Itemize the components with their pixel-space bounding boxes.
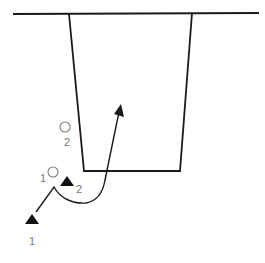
offense-triangle-icon — [60, 176, 74, 186]
defender-1: 1 — [40, 167, 58, 184]
defender-2: 2 — [60, 122, 70, 148]
offense-2: 2 — [60, 176, 82, 195]
offense-1-label: 1 — [29, 235, 35, 247]
offense-1: 1 — [25, 214, 39, 247]
movement-path-arrow — [36, 112, 119, 212]
lane-outline — [69, 13, 192, 171]
play-diagram: 1 2 1 2 — [0, 0, 265, 263]
offense-2-label: 2 — [76, 183, 82, 195]
defender-circle-icon — [48, 167, 58, 177]
defender-1-label: 1 — [40, 172, 46, 184]
offense-triangle-icon — [25, 214, 39, 224]
defender-2-label: 2 — [64, 136, 70, 148]
baseline-line — [13, 13, 259, 14]
arrowhead-icon — [114, 104, 124, 117]
defender-circle-icon — [60, 122, 70, 132]
